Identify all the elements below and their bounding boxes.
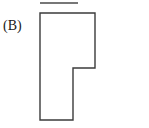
l-shape-outline	[40, 13, 95, 120]
figure-canvas	[0, 0, 149, 128]
figure-label: (B)	[3, 18, 22, 34]
figure-page: (B)	[0, 0, 149, 128]
